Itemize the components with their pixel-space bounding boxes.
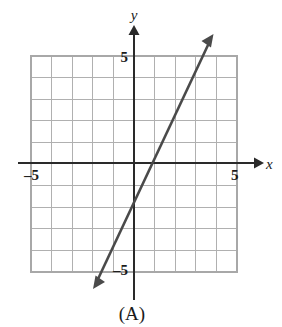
coordinate-plane-plot: x y 5 –5 –5 5 (A) [0, 0, 282, 327]
x-axis-arrow-icon [254, 158, 264, 169]
figure-caption: (A) [119, 303, 145, 325]
axes [18, 25, 264, 300]
y-axis-arrow-icon [129, 25, 140, 35]
y-tick-label-negative: –5 [112, 262, 128, 278]
x-tick-label-positive: 5 [231, 167, 239, 183]
x-tick-label-negative: –5 [23, 167, 39, 183]
y-axis-label: y [129, 7, 138, 23]
line-segment [98, 44, 209, 279]
graph-figure: x y 5 –5 –5 5 (A) [0, 0, 282, 327]
x-axis-label: x [265, 156, 273, 172]
y-tick-label-positive: 5 [121, 49, 129, 65]
